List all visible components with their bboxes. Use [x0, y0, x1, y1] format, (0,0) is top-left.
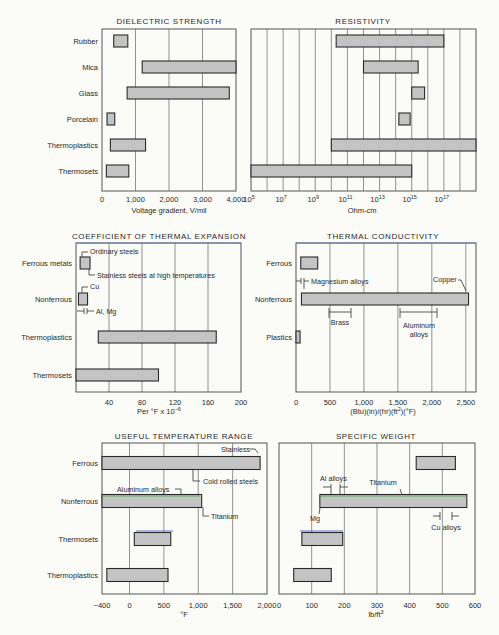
x-tick-label: 80: [138, 398, 146, 407]
bar-thermoplastics: [98, 331, 216, 343]
annotation-aluminum-alloys-1: Aluminum: [403, 321, 435, 330]
category-label: Ferrous: [72, 459, 98, 468]
x-tick-label: 1011: [338, 194, 352, 204]
material-properties-figure: DIELECTRIC STRENGTH RubberMicaGlassPorce…: [0, 0, 499, 635]
x-tick-label: 40: [105, 398, 113, 407]
category-label: Rubber: [73, 37, 98, 46]
annotation-copper: Copper: [433, 275, 457, 284]
x-axis-title: (Btu)(in)/(hr)(ft2)(°F): [350, 406, 416, 416]
x-axis-title: Per °F x 10−6: [137, 406, 181, 416]
x-tick-label: 0: [127, 601, 131, 610]
bar-porcelain: [399, 113, 410, 125]
category-label: Thermoplastics: [47, 141, 98, 150]
bar-thermosets: [134, 533, 170, 546]
x-tick-labels: 05001,0001,5002,0002,500: [294, 398, 475, 407]
category-labels: RubberMicaGlassPorcelainThermoplasticsTh…: [47, 37, 99, 176]
bar-rubber: [114, 35, 128, 47]
bars: [106, 35, 236, 177]
chart-title: SPECIFIC WEIGHT: [336, 432, 416, 441]
x-axis-title: lb/ft3: [368, 609, 383, 619]
x-tick-label: 109: [308, 194, 319, 204]
bar-thermoplastics: [110, 139, 145, 151]
x-tick-label: 1,000: [189, 601, 208, 610]
bar-nonferrous: [78, 293, 87, 305]
x-tick-label: 105: [243, 194, 254, 204]
annotation-magnesium-alloys: Magnesium alloys: [311, 277, 369, 286]
bar-thermosets: [106, 165, 128, 177]
bar-mica: [364, 61, 419, 73]
category-label: Mica: [82, 63, 99, 72]
chart-title: USEFUL TEMPERATURE RANGE: [115, 432, 253, 441]
x-tick-label: 1017: [435, 194, 449, 204]
annotation-cold-rolled-steels: Cold rolled steels: [203, 477, 259, 486]
x-tick-label: 2,000: [160, 195, 179, 204]
annotation-stainless-steels: Stainless steels at high temperatures: [97, 271, 215, 280]
bar-thermosets: [251, 165, 412, 177]
category-label: Plastics: [266, 333, 292, 342]
x-tick-labels: 0100200300400500600: [277, 601, 481, 610]
bar-rubber: [336, 35, 444, 47]
annotation-titanium: Titanium: [211, 512, 238, 521]
bar-nonferrous: [301, 293, 468, 305]
leader-line: [193, 470, 200, 481]
x-tick-labels: 1051071091011101310151017: [243, 194, 449, 204]
x-tick-label: 0: [294, 398, 298, 407]
bar-thermosets: [302, 533, 343, 546]
annotation-al-alloys: Al alloys: [320, 474, 347, 483]
bar-nonferrous: [320, 495, 467, 508]
bar-mica: [142, 61, 236, 73]
x-tick-label: 1015: [402, 194, 416, 204]
bar-thermoplastics: [107, 569, 168, 582]
x-tick-label: 200: [338, 601, 351, 610]
x-axis-title: Voltage gradient, V/mil: [131, 206, 206, 215]
x-tick-label: 600: [469, 601, 482, 610]
leader-line: [458, 280, 466, 291]
bars: [296, 257, 469, 343]
x-tick-label: 500: [158, 601, 171, 610]
x-tick-label: 160: [202, 398, 215, 407]
x-tick-label: 1,000: [126, 195, 145, 204]
x-tick-label: 0: [277, 601, 281, 610]
annotation-aluminum-alloys-2: alloys: [410, 330, 429, 339]
category-label: Nonferrous: [255, 295, 292, 304]
leader-line: [82, 252, 88, 257]
chart-resistivity: RESISTIVITY 1051071091011101310151017 Oh…: [243, 17, 476, 215]
annotation-al-mg: Al, Mg: [96, 307, 116, 316]
chart-thermal-expansion: COEFFICIENT OF THERMAL EXPANSION Ferrous…: [21, 232, 247, 416]
bar-plastics: [296, 331, 300, 343]
chart-useful-temperature-range: USEFUL TEMPERATURE RANGE FerrousNonferro…: [47, 432, 276, 619]
bar-thermoplastics: [294, 569, 332, 582]
leader-line: [82, 287, 88, 292]
chart-title: COEFFICIENT OF THERMAL EXPANSION: [72, 232, 246, 241]
bar-glass: [127, 87, 229, 99]
x-tick-label: 107: [275, 194, 286, 204]
leader-line: [175, 489, 181, 494]
category-label: Thermosets: [58, 535, 98, 544]
annotation-mg: Mg: [310, 514, 320, 523]
x-tick-label: 1,500: [223, 601, 242, 610]
x-tick-label: 2,000: [422, 398, 441, 407]
bar-thermosets: [76, 369, 159, 381]
x-tick-label: 2,500: [456, 398, 475, 407]
x-tick-labels: −40005001,0001,5002,000: [94, 601, 277, 610]
category-label: Nonferrous: [61, 497, 98, 506]
chart-title: THERMAL CONDUCTIVITY: [327, 232, 439, 241]
chart-title: RESISTIVITY: [335, 17, 391, 26]
x-tick-label: 400: [403, 601, 416, 610]
category-labels: FerrousNonferrousThermosetsThermoplastic…: [47, 459, 98, 580]
category-labels: Ferrous metalsNonferrousThermoplasticsTh…: [21, 259, 72, 380]
category-label: Nonferrous: [35, 295, 72, 304]
chart-thermal-conductivity: THERMAL CONDUCTIVITY FerrousNonferrousPl…: [255, 232, 476, 416]
annotation-titanium: Titanium: [369, 478, 396, 487]
annotation-stainless: Stainless: [221, 445, 251, 454]
category-label: Thermosets: [32, 371, 72, 380]
category-label: Porcelain: [67, 115, 98, 124]
category-label: Thermosets: [58, 167, 98, 176]
x-tick-label: 1,000: [355, 398, 374, 407]
annotation-brass: Brass: [331, 318, 350, 327]
x-tick-label: −400: [94, 601, 111, 610]
category-label: Glass: [79, 89, 98, 98]
gridlines: [136, 29, 203, 191]
plot-frame: [296, 243, 476, 392]
bar-ferrous: [416, 457, 455, 470]
